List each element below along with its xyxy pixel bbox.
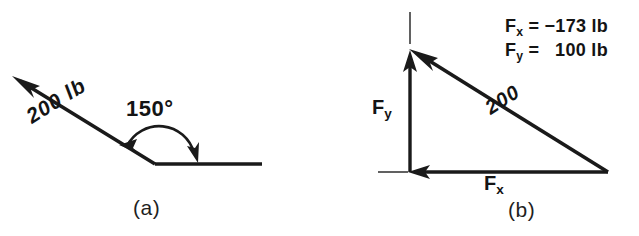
- angle-label-150: 150°: [126, 96, 174, 122]
- equation-fx-value: = −173 lb: [523, 16, 608, 36]
- fx-subscript: x: [496, 182, 504, 197]
- angle-arc-arrowhead-right: [187, 142, 199, 163]
- equation-fy: Fy = 100 lb: [505, 40, 608, 63]
- equation-fx: Fx = −173 lb: [505, 16, 608, 39]
- equation-fy-value: = 100 lb: [523, 40, 608, 60]
- figure-root: 200 lb 150° (a) Fy Fx 200 (b) Fx = −173 …: [0, 0, 639, 236]
- fx-symbol: F: [484, 172, 496, 194]
- caption-panel-a: (a): [133, 196, 160, 220]
- caption-panel-b: (b): [508, 198, 535, 222]
- angle-arc-150: [127, 126, 194, 153]
- force-vector-arrowhead-a: [12, 76, 40, 98]
- fy-subscript: y: [384, 106, 392, 121]
- equation-fy-symbol: F: [505, 40, 516, 60]
- fy-component-label: Fy: [372, 96, 392, 121]
- equation-fx-symbol: F: [505, 16, 516, 36]
- fy-symbol: F: [372, 96, 384, 118]
- fx-component-label: Fx: [484, 172, 504, 197]
- resultant-vector-shaft-b: [420, 55, 608, 172]
